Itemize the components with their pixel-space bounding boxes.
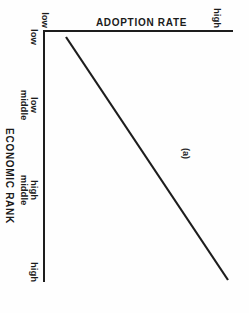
- x-tick-label-high: high: [29, 252, 39, 292]
- rotated-figure-stage: (a) low low middle high middle high ECON…: [0, 0, 249, 313]
- x-tick-label-high-middle: high middle: [19, 167, 39, 213]
- plot-area: (a) low low middle high middle high ECON…: [43, 30, 233, 282]
- x-axis-title: ECONOMIC RANK: [4, 76, 15, 276]
- y-axis-title: ADOPTION RATE: [32, 17, 250, 28]
- data-line-series: [43, 30, 233, 282]
- x-tick-label-low-middle: low middle: [19, 82, 39, 128]
- adoption-rate-trend-line: [66, 37, 228, 280]
- panel-label: (a): [181, 148, 191, 159]
- figure-page: (a) low low middle high middle high ECON…: [0, 0, 249, 313]
